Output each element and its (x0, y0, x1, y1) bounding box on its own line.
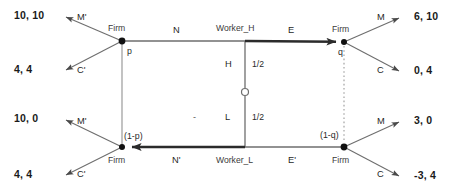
action-label-bottom-right-down: C (377, 170, 384, 179)
action-label-E-prime: E' (288, 156, 296, 165)
payoff-top-left-lower: 4, 4 (14, 64, 32, 75)
payoff-bottom-right-lower: -3, 4 (414, 170, 436, 181)
branch-bottom-left-M-prime (66, 120, 122, 147)
action-label-top-right-down: C (377, 66, 384, 75)
type-label-high: H (225, 60, 232, 69)
action-label-bottom-left-down: C' (77, 170, 86, 179)
chance-node (242, 89, 249, 96)
player-label-worker-high: Worker_H (216, 24, 255, 33)
payoff-top-right-lower: 0, 4 (414, 65, 432, 76)
branch-top-right-M (344, 18, 399, 42)
edge-E-top (245, 41, 336, 42)
chance-probability-low: 1/2 (252, 113, 264, 122)
action-label-N: N (173, 26, 180, 35)
payoff-bottom-left-lower: 4, 4 (14, 169, 32, 180)
branch-bottom-right-M (344, 122, 399, 147)
action-label-top-right-up: M (377, 13, 385, 22)
action-label-N-prime: N' (172, 156, 181, 165)
payoff-top-left-upper: 10, 10 (14, 10, 44, 21)
belief-label-q: q (338, 48, 343, 57)
node-firm-top-right (341, 39, 347, 45)
belief-label-one-minus-q: (1-q) (320, 131, 339, 140)
chance-probability-high: 1/2 (252, 60, 264, 69)
node-firm-bottom-right (341, 144, 348, 151)
action-label-E: E (288, 26, 294, 35)
node-firm-bottom-left (119, 144, 125, 150)
payoff-top-right-upper: 6, 10 (414, 11, 438, 22)
action-label-bottom-right-up: M (377, 117, 385, 126)
branch-bottom-right-C (344, 147, 399, 176)
player-label-worker-low: Worker_L (216, 156, 253, 165)
game-tree-diagram: 10, 10 4, 4 10, 0 4, 4 6, 10 0, 4 3, 0 -… (0, 0, 467, 189)
player-label-firm-bottom-right: Firm (332, 156, 349, 165)
player-label-firm-bottom-left: Firm (108, 156, 125, 165)
type-label-low: L (225, 113, 230, 122)
branch-top-left-C-prime (66, 41, 122, 70)
payoff-bottom-left-upper: 10, 0 (14, 113, 38, 124)
action-label-top-left-down: C' (77, 66, 86, 75)
belief-label-one-minus-p: (1-p) (124, 132, 143, 141)
payoff-bottom-right-upper: 3, 0 (414, 115, 432, 126)
belief-label-p: p (127, 47, 132, 56)
action-label-top-left-up: M' (77, 13, 87, 22)
action-label-bottom-left-up: M' (77, 117, 87, 126)
player-label-firm-top-left: Firm (108, 24, 125, 33)
separator-mark: - (193, 113, 196, 122)
branch-top-right-C (344, 42, 399, 71)
node-firm-top-left (119, 38, 126, 45)
player-label-firm-top-right: Firm (332, 25, 349, 34)
